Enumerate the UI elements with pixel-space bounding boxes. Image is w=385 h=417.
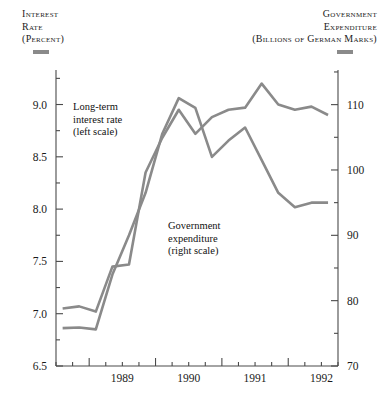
- annotation-government-expenditure-line2: expenditure: [168, 233, 221, 246]
- y2-axis-tick-label: 110: [347, 99, 364, 111]
- y-axis-tick-label: 6.5: [33, 360, 48, 372]
- annotation-interest-rate: Long-term interest rate (left scale): [73, 101, 122, 139]
- y-axis-tick-label: 7.5: [33, 255, 48, 267]
- x-axis-tick-label: 1989: [111, 372, 134, 384]
- y-axis-tick-label: 8.5: [33, 151, 48, 163]
- chart-figure: Interest Rate (Percent) Government Expen…: [0, 0, 385, 417]
- x-axis-tick-label: 1992: [310, 372, 333, 384]
- y-axis-tick-label: 9.0: [33, 99, 48, 111]
- annotation-government-expenditure: Government expenditure (right scale): [168, 220, 221, 258]
- y-axis-tick-label: 8.0: [33, 203, 48, 215]
- y2-axis-tick-label: 100: [347, 164, 365, 176]
- y-axis-tick-label: 7.0: [33, 308, 48, 320]
- y2-axis-tick-label: 80: [347, 295, 359, 307]
- x-axis-tick-label: 1991: [244, 372, 267, 384]
- annotation-interest-rate-line1: Long-term: [73, 101, 122, 114]
- y2-axis-tick-label: 70: [347, 360, 359, 372]
- annotation-interest-rate-line2: interest rate: [73, 114, 122, 127]
- y2-axis-tick-label: 90: [347, 229, 359, 241]
- annotation-interest-rate-line3: (left scale): [73, 126, 122, 139]
- annotation-government-expenditure-line3: (right scale): [168, 245, 221, 258]
- annotation-government-expenditure-line1: Government: [168, 220, 221, 233]
- x-axis-tick-label: 1990: [177, 372, 200, 384]
- chart-plot-area: 6.57.07.58.08.59.07080901001101989199019…: [0, 0, 385, 417]
